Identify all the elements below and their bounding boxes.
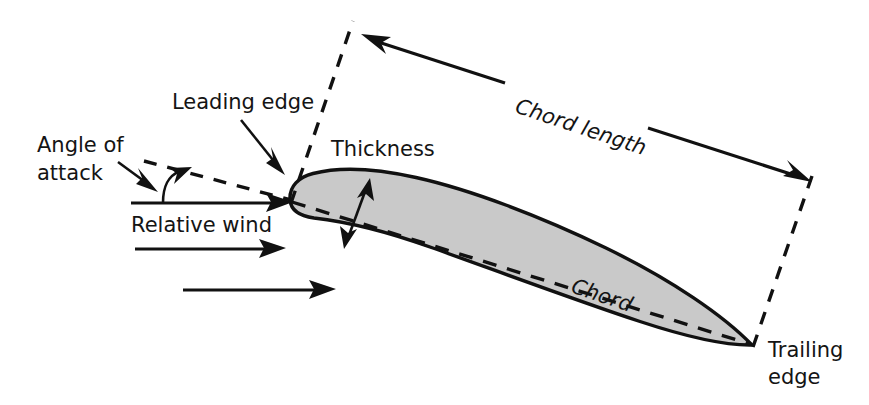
angle-of-attack-label-line2: attack	[37, 161, 104, 185]
airfoil-diagram-canvas: Chord length Chord Thickness Leading edg…	[0, 0, 869, 405]
leading-edge-pointer-arrowhead	[266, 147, 285, 175]
trailing-edge-label-line2: edge	[768, 365, 821, 389]
chord-length-line-right	[648, 128, 800, 177]
angle-of-attack-group: Angle of attack	[37, 133, 291, 203]
leading-edge-group: Leading edge	[172, 90, 314, 175]
chord-length-line-left	[372, 40, 505, 83]
trailing-edge-group: Trailing edge	[767, 338, 843, 389]
leading-edge-pointer-line	[241, 120, 277, 165]
leading-edge-label: Leading edge	[172, 90, 314, 114]
angle-of-attack-label-line1: Angle of	[37, 133, 124, 157]
thickness-arrowhead-down	[340, 226, 357, 249]
thickness-label: Thickness	[330, 137, 435, 161]
relative-wind-label: Relative wind	[131, 213, 272, 237]
airfoil-diagram: Chord length Chord Thickness Leading edg…	[0, 0, 869, 405]
trailing-edge-label-line1: Trailing	[767, 338, 843, 362]
chord-length-label: Chord length	[512, 94, 649, 160]
angle-of-attack-pointer-arrowhead	[136, 168, 158, 192]
trailing-edge-extension-line	[753, 176, 812, 347]
chord-length-arrowhead-right	[783, 160, 812, 182]
